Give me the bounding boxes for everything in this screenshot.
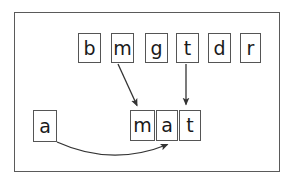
- letter-tile-d-label: d: [213, 38, 225, 57]
- letter-tile-a-source-label: a: [39, 116, 51, 135]
- letter-tile-g-label: g: [150, 38, 162, 57]
- letter-tile-t-bank-label: t: [184, 38, 191, 57]
- letter-tile-r-label: r: [247, 38, 255, 57]
- diagram-canvas: b m g t d r a m a t: [0, 0, 293, 184]
- letter-tile-d[interactable]: d: [208, 33, 231, 63]
- letter-tile-m-bank[interactable]: m: [111, 33, 134, 63]
- letter-tile-t-bank[interactable]: t: [176, 33, 199, 63]
- letter-tile-b-label: b: [83, 38, 95, 57]
- letter-tile-b[interactable]: b: [78, 33, 101, 63]
- word-tile-m[interactable]: m: [130, 110, 155, 141]
- letter-tile-r[interactable]: r: [240, 33, 261, 63]
- word-tile-a-label: a: [161, 116, 173, 135]
- word-tile-a[interactable]: a: [156, 110, 178, 141]
- word-tile-t[interactable]: t: [179, 110, 201, 141]
- word-tile-m-label: m: [133, 116, 152, 135]
- letter-tile-m-bank-label: m: [113, 38, 132, 57]
- letter-tile-g[interactable]: g: [145, 33, 168, 63]
- word-tile-t-label: t: [186, 116, 193, 135]
- letter-tile-a-source[interactable]: a: [33, 110, 57, 142]
